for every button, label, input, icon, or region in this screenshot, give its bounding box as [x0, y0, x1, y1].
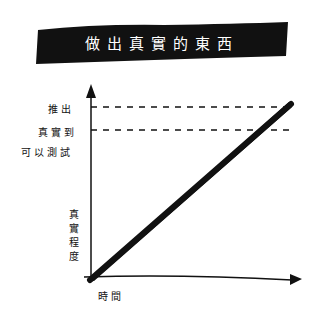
x-axis — [84, 276, 292, 280]
x-axis-label: 時間 — [98, 288, 124, 303]
launch-label: 推出 — [48, 101, 74, 116]
y-axis-label: 真 實 程 度 — [68, 208, 80, 264]
testable-label-line1: 真實到 — [38, 124, 77, 139]
y-axis-arrow-icon — [86, 84, 96, 98]
testable-label-line2: 可以測試 — [21, 144, 73, 159]
progress-chart — [0, 0, 320, 320]
x-axis-arrow-icon — [290, 274, 302, 285]
